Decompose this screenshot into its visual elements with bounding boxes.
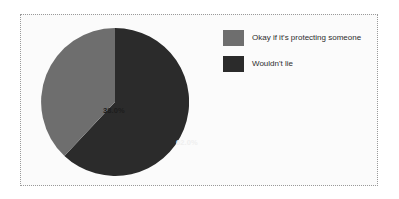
legend-item-okay-if-protecting[interactable]: Okay if it's protecting someone	[223, 30, 378, 46]
legend-item-wouldnt-lie[interactable]: Wouldn't lie	[223, 56, 378, 72]
pie-chart-plot-area: 38.0% 62.0% Okay if it's protecting some…	[0, 0, 399, 199]
legend-label-wouldnt-lie: Wouldn't lie	[252, 56, 293, 72]
pie-chart: 38.0% 62.0%	[41, 28, 189, 176]
legend-swatch-icon	[223, 30, 244, 46]
pie-chart-svg	[41, 28, 189, 176]
chart-legend: Okay if it's protecting someone Wouldn't…	[223, 30, 378, 82]
pie-data-label-okay-if-protecting: 38.0%	[103, 106, 125, 115]
legend-swatch-icon	[223, 56, 244, 72]
legend-label-okay-if-protecting: Okay if it's protecting someone	[252, 30, 361, 46]
pie-data-label-wouldnt-lie: 62.0%	[176, 138, 198, 147]
